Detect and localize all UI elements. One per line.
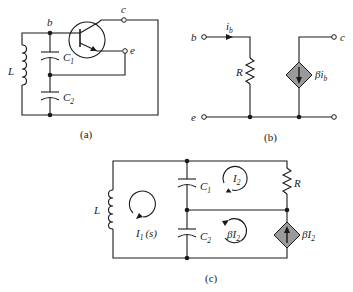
terminal-e bbox=[202, 115, 207, 120]
label-e: e bbox=[191, 111, 196, 123]
label-beta-i2-source: βI2 bbox=[301, 228, 315, 243]
caption-c: (c) bbox=[205, 272, 218, 285]
loop-arrowhead-icon bbox=[222, 220, 229, 226]
loop-arrowhead-icon bbox=[226, 188, 233, 195]
label-c2: C2 bbox=[200, 230, 211, 245]
caption-a: (a) bbox=[80, 128, 93, 141]
terminal-b bbox=[202, 35, 207, 40]
resistor-r-symbol bbox=[283, 168, 291, 194]
label-l: L bbox=[7, 65, 14, 77]
loop-arrow-cw-icon bbox=[129, 191, 155, 217]
panel-b-small-signal-model: b e c ib R βib (b) bbox=[191, 20, 345, 144]
label-i1s: I1(s) bbox=[135, 227, 157, 242]
inductor-l-symbol bbox=[22, 45, 27, 85]
circuit-figure: b c e L C1 C2 (a) b e c ib R βib (b) bbox=[0, 0, 353, 292]
panel-c-loop-analysis: L C1 C2 R I1(s) I2 βI2 βI2 (c) bbox=[93, 159, 315, 285]
wire bbox=[299, 37, 332, 62]
terminal-e-out bbox=[332, 115, 337, 120]
label-c: c bbox=[121, 3, 126, 15]
label-b: b bbox=[191, 31, 197, 43]
node-dot bbox=[248, 115, 253, 120]
node-dot bbox=[48, 113, 53, 118]
label-c1: C1 bbox=[200, 180, 211, 195]
wire bbox=[22, 20, 158, 115]
label-c2: C2 bbox=[63, 91, 74, 106]
label-r: R bbox=[235, 66, 243, 78]
label-i2: I2 bbox=[232, 172, 241, 187]
terminal-c bbox=[332, 35, 337, 40]
wire bbox=[206, 37, 250, 58]
transistor-emitter-lead bbox=[80, 43, 122, 51]
node-dot bbox=[297, 115, 302, 120]
terminal-c bbox=[122, 18, 127, 23]
node-dot bbox=[48, 31, 53, 36]
label-ib: ib bbox=[226, 20, 233, 35]
node-dot bbox=[285, 208, 290, 213]
node-dot bbox=[185, 159, 190, 164]
wire bbox=[22, 33, 50, 45]
label-beta-ib: βib bbox=[314, 68, 328, 83]
resistor-r-symbol bbox=[246, 58, 254, 84]
caption-b: (b) bbox=[264, 131, 277, 144]
transistor-envelope bbox=[69, 22, 105, 58]
panel-a-colpitts-oscillator: b c e L C1 C2 (a) bbox=[7, 3, 158, 141]
label-r: R bbox=[293, 177, 301, 189]
terminal-e bbox=[123, 49, 128, 54]
label-e: e bbox=[130, 44, 135, 56]
loop-arrowhead-icon bbox=[136, 213, 143, 219]
node-dot bbox=[185, 208, 190, 213]
node-dot bbox=[185, 256, 190, 261]
label-l: L bbox=[93, 204, 100, 216]
label-c: c bbox=[340, 31, 345, 43]
label-b: b bbox=[47, 16, 53, 28]
inductor-l-symbol bbox=[109, 190, 114, 229]
label-c1: C1 bbox=[63, 51, 74, 66]
wire bbox=[50, 53, 125, 75]
node-dot bbox=[48, 73, 53, 78]
